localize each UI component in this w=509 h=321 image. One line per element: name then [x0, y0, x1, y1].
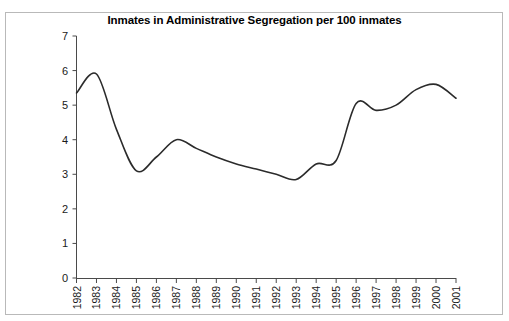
- data-line-series: [77, 73, 457, 180]
- y-axis-tick-label: 3: [46, 168, 68, 180]
- x-axis-tick-label: 1986: [150, 286, 162, 309]
- x-axis-tick-label: 2000: [430, 286, 442, 309]
- y-axis-ticks: [73, 36, 77, 278]
- y-axis-tick-label: 2: [46, 203, 68, 215]
- x-axis-tick-label: 1983: [90, 286, 102, 309]
- x-axis-tick-label: 1988: [190, 286, 202, 309]
- x-axis-tick-label: 1990: [230, 286, 242, 309]
- y-axis-tick-label: 0: [46, 272, 68, 284]
- x-axis-tick-label: 1995: [330, 286, 342, 309]
- x-axis-tick-label: 2001: [450, 286, 462, 309]
- x-axis-tick-label: 1989: [210, 286, 222, 309]
- x-axis-tick-label: 1997: [370, 286, 382, 309]
- y-axis-tick-label: 7: [46, 30, 68, 42]
- y-axis-tick-label: 5: [46, 99, 68, 111]
- axis-lines: [77, 36, 457, 279]
- x-axis-tick-label: 1982: [71, 286, 83, 309]
- y-axis-tick-label: 6: [46, 65, 68, 77]
- chart-figure: Inmates in Administrative Segregation pe…: [0, 0, 509, 321]
- x-axis-tick-label: 1984: [110, 286, 122, 309]
- x-axis-tick-label: 1996: [350, 286, 362, 309]
- x-axis-tick-label: 1991: [250, 286, 262, 309]
- y-axis-tick-label: 4: [46, 134, 68, 146]
- x-axis-tick-label: 1993: [290, 286, 302, 309]
- x-axis-tick-label: 1994: [310, 286, 322, 309]
- x-axis-tick-label: 1987: [170, 286, 182, 309]
- x-axis-tick-label: 1999: [410, 286, 422, 309]
- y-axis-tick-label: 1: [46, 237, 68, 249]
- x-axis-tick-label: 1985: [130, 286, 142, 309]
- line-chart-plot: [0, 0, 509, 321]
- x-axis-tick-label: 1992: [270, 286, 282, 309]
- x-axis-tick-label: 1998: [390, 286, 402, 309]
